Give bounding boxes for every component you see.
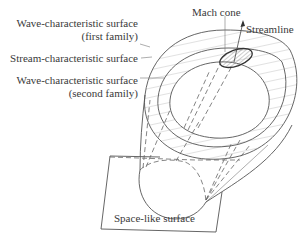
label-wave-second-line2: (second family) (69, 87, 139, 100)
label-wave-second-line1: Wave-characteristic surface (16, 74, 138, 86)
label-streamline: Streamline (246, 23, 294, 35)
label-space-like-surface: Space-like surface (114, 212, 195, 224)
label-wave-first-line2: (first family) (81, 30, 138, 43)
base-ellipse (110, 157, 240, 219)
label-wave-first-line1: Wave-characteristic surface (16, 17, 138, 29)
characteristic-surfaces-diagram: Wave-characteristic surface (first famil… (0, 0, 308, 244)
label-stream-characteristic: Stream-characteristic surface (10, 52, 138, 64)
label-mach-cone: Mach cone (192, 6, 241, 18)
hatched-ring (130, 20, 308, 170)
